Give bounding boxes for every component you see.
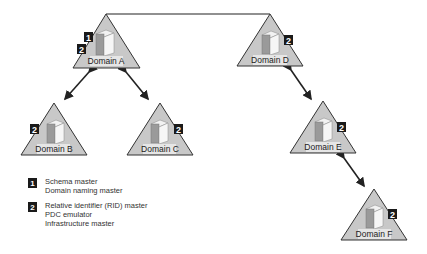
legend-item-2: 2 Relative identifier (RID) master PDC e… [28,201,148,228]
legend-line: Relative identifier (RID) master [45,201,148,210]
domain-f: Domain F 2 [341,189,407,240]
domain-d: Domain D 2 [237,14,303,66]
server-icon [366,205,383,229]
legend-item-1: 1 Schema master Domain naming master [28,177,148,195]
domain-label: Domain B [35,144,73,154]
legend-line: Domain naming master [45,186,123,195]
domain-c: Domain C 2 [127,103,193,155]
domain-label: Domain E [304,142,342,152]
arrow-e-f [344,158,364,186]
server-icon [151,120,168,144]
server-icon [315,118,332,142]
server-icon [47,120,64,144]
svg-text:2: 2 [286,36,291,46]
svg-text:2: 2 [32,125,37,135]
svg-text:2: 2 [176,125,181,135]
svg-text:1: 1 [86,33,91,43]
arrow-a-c [126,72,148,99]
legend: 1 Schema master Domain naming master 2 R… [28,177,148,234]
domain-label: Domain A [88,56,125,66]
server-icon [262,31,279,55]
badge-1: 1 [28,178,37,188]
legend-line: Schema master [45,177,123,186]
arrow-d-e [291,70,311,99]
svg-text:2: 2 [79,45,84,55]
server-icon [96,30,114,56]
legend-line: PDC emulator [45,210,148,219]
legend-line: Infrastructure master [45,219,148,228]
svg-text:2: 2 [339,123,344,133]
domain-e: Domain E 2 [290,101,356,153]
domain-label: Domain C [141,144,179,154]
domain-a: Domain A 1 2 [73,14,140,68]
arrow-a-b [65,72,89,99]
badge-2: 2 [28,202,37,212]
domain-label: Domain F [356,229,393,239]
svg-text:2: 2 [390,210,395,220]
domain-label: Domain D [251,55,289,65]
domain-b: Domain B 2 [21,103,87,155]
